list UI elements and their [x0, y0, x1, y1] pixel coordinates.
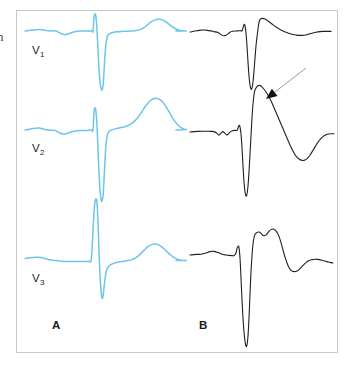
lead-label-v3: V3	[32, 272, 45, 284]
panel-label-a: A	[52, 319, 60, 331]
lead-label-v1-letter: V	[32, 44, 40, 56]
arrow-annotation-group	[266, 68, 306, 99]
ecg-trace-layer	[0, 0, 348, 371]
lead-label-v3-subscript: 3	[40, 278, 45, 287]
figure-root: n V1 V2 V3 A B	[0, 0, 348, 371]
ecg-traces-svg	[0, 0, 348, 371]
ecg-trace-a-v1	[25, 14, 186, 90]
lead-label-v1-subscript: 1	[40, 50, 45, 59]
lead-label-v2: V2	[32, 142, 45, 154]
panel-label-b: B	[199, 319, 207, 331]
ecg-series-group	[25, 14, 334, 347]
lead-label-v2-letter: V	[32, 142, 40, 154]
ecg-trace-b-1	[190, 18, 331, 89]
annotation-arrow-shaft	[275, 68, 306, 92]
ecg-trace-a-v3	[25, 199, 186, 299]
lead-label-v2-subscript: 2	[40, 148, 45, 157]
lead-label-v3-letter: V	[32, 272, 40, 284]
lead-label-v1: V1	[32, 44, 45, 56]
ecg-trace-a-v2	[25, 98, 187, 201]
ecg-trace-b-2	[190, 85, 334, 196]
ecg-trace-b-3	[190, 229, 333, 347]
